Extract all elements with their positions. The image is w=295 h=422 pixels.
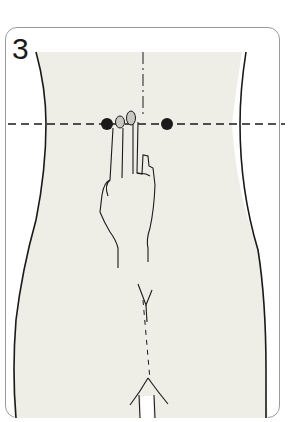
gap-white	[141, 396, 153, 418]
lower-back-illustration	[0, 0, 295, 422]
torso-shape	[13, 52, 268, 418]
fingernail-icon	[127, 111, 136, 125]
fingernail-icon	[116, 116, 125, 128]
acupoint-left-marker	[101, 118, 113, 130]
acupoint-right-marker	[161, 118, 173, 130]
